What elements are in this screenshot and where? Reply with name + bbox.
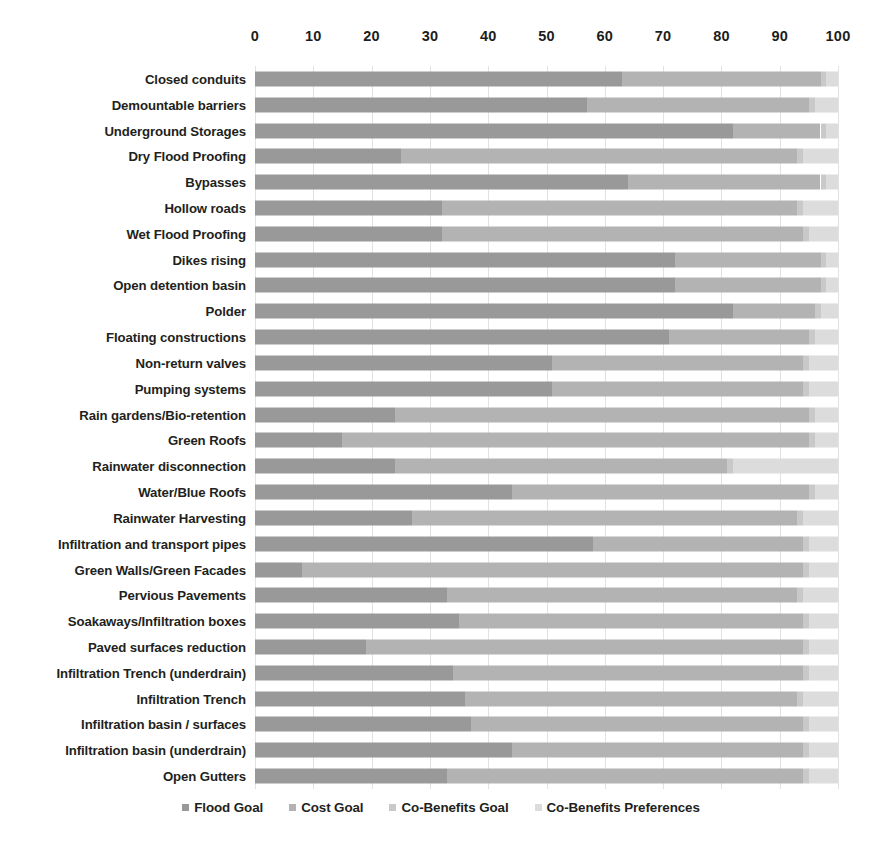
category-label: Underground Storages — [0, 123, 246, 138]
legend-swatch-icon — [389, 804, 396, 811]
category-label: Rainwater disconnection — [0, 459, 246, 474]
chart-row: Polder — [0, 298, 882, 324]
stacked-bar — [255, 769, 838, 784]
stacked-bar-chart: 0102030405060708090100 Closed conduitsDe… — [0, 0, 882, 859]
bar-segment-flood-goal — [255, 485, 512, 500]
bar-segment-co-benefits-preferences — [809, 226, 838, 241]
stacked-bar — [255, 743, 838, 758]
bar-segment-cost-goal — [447, 588, 797, 603]
category-label: Dry Flood Proofing — [0, 149, 246, 164]
bar-segment-flood-goal — [255, 588, 447, 603]
bar-segment-flood-goal — [255, 175, 628, 190]
chart-rows: Closed conduitsDemountable barriersUnder… — [0, 66, 882, 789]
bar-segment-flood-goal — [255, 459, 395, 474]
legend-item-co-benefits-goal[interactable]: Co-Benefits Goal — [389, 800, 508, 815]
bar-segment-co-benefits-preferences — [803, 149, 838, 164]
stacked-bar — [255, 226, 838, 241]
bar-segment-flood-goal — [255, 123, 733, 138]
x-axis-tick-60: 60 — [597, 28, 614, 44]
stacked-bar — [255, 614, 838, 629]
legend-swatch-icon — [182, 804, 189, 811]
chart-legend: Flood GoalCost GoalCo-Benefits GoalCo-Be… — [0, 800, 882, 815]
bar-segment-cost-goal — [401, 149, 797, 164]
chart-row: Soakaways/Infiltration boxes — [0, 608, 882, 634]
x-axis-tick-labels: 0102030405060708090100 — [0, 28, 882, 54]
bar-segment-co-benefits-preferences — [809, 639, 838, 654]
bar-segment-cost-goal — [593, 536, 803, 551]
chart-row: Underground Storages — [0, 118, 882, 144]
x-axis-tick-20: 20 — [363, 28, 380, 44]
x-axis-tick-50: 50 — [538, 28, 555, 44]
chart-row: Green Walls/Green Facades — [0, 557, 882, 583]
bar-segment-co-benefits-preferences — [815, 485, 838, 500]
chart-row: Pervious Pavements — [0, 582, 882, 608]
bar-segment-cost-goal — [342, 433, 808, 448]
x-axis-tick-70: 70 — [655, 28, 672, 44]
chart-row: Rainwater Harvesting — [0, 505, 882, 531]
chart-row: Non-return valves — [0, 350, 882, 376]
bar-segment-flood-goal — [255, 717, 471, 732]
category-label: Pumping systems — [0, 381, 246, 396]
category-label: Infiltration Trench — [0, 691, 246, 706]
legend-item-flood-goal[interactable]: Flood Goal — [182, 800, 263, 815]
bar-segment-cost-goal — [442, 226, 803, 241]
stacked-bar — [255, 639, 838, 654]
bar-segment-co-benefits-preferences — [803, 201, 838, 216]
category-label: Water/Blue Roofs — [0, 485, 246, 500]
stacked-bar — [255, 665, 838, 680]
category-label: Infiltration and transport pipes — [0, 536, 246, 551]
stacked-bar — [255, 252, 838, 267]
chart-row: Rain gardens/Bio-retention — [0, 402, 882, 428]
bar-segment-cost-goal — [552, 381, 803, 396]
bar-segment-flood-goal — [255, 201, 442, 216]
bar-segment-cost-goal — [733, 123, 820, 138]
chart-row: Infiltration basin (underdrain) — [0, 737, 882, 763]
category-label: Bypasses — [0, 175, 246, 190]
bar-segment-co-benefits-preferences — [826, 175, 838, 190]
chart-row: Green Roofs — [0, 428, 882, 454]
category-label: Infiltration Trench (underdrain) — [0, 665, 246, 680]
legend-item-co-benefits-preferences[interactable]: Co-Benefits Preferences — [535, 800, 700, 815]
bar-segment-flood-goal — [255, 149, 401, 164]
bar-segment-co-benefits-preferences — [803, 510, 838, 525]
bar-segment-flood-goal — [255, 97, 587, 112]
legend-item-cost-goal[interactable]: Cost Goal — [289, 800, 363, 815]
bar-segment-co-benefits-preferences — [826, 71, 838, 86]
stacked-bar — [255, 433, 838, 448]
x-axis-tick-30: 30 — [422, 28, 439, 44]
stacked-bar — [255, 278, 838, 293]
chart-row: Open Gutters — [0, 763, 882, 789]
legend-swatch-icon — [535, 804, 542, 811]
category-label: Soakaways/Infiltration boxes — [0, 614, 246, 629]
bar-segment-flood-goal — [255, 691, 465, 706]
category-label: Floating constructions — [0, 330, 246, 345]
chart-row: Infiltration Trench (underdrain) — [0, 660, 882, 686]
bar-segment-flood-goal — [255, 226, 442, 241]
legend-label: Flood Goal — [194, 800, 263, 815]
bar-segment-flood-goal — [255, 407, 395, 422]
bar-segment-flood-goal — [255, 769, 447, 784]
bar-segment-co-benefits-preferences — [826, 123, 838, 138]
x-axis-tick-40: 40 — [480, 28, 497, 44]
bar-segment-cost-goal — [675, 252, 821, 267]
bar-segment-co-benefits-preferences — [815, 433, 838, 448]
x-axis-tick-100: 100 — [826, 28, 851, 44]
stacked-bar — [255, 485, 838, 500]
stacked-bar — [255, 407, 838, 422]
legend-label: Co-Benefits Preferences — [547, 800, 700, 815]
legend-label: Co-Benefits Goal — [401, 800, 508, 815]
bar-segment-co-benefits-preferences — [815, 330, 838, 345]
bar-segment-flood-goal — [255, 381, 552, 396]
bar-segment-flood-goal — [255, 433, 342, 448]
stacked-bar — [255, 459, 838, 474]
stacked-bar — [255, 149, 838, 164]
chart-row: Hollow roads — [0, 195, 882, 221]
bar-segment-flood-goal — [255, 510, 412, 525]
bar-segment-co-benefits-preferences — [809, 381, 838, 396]
bar-segment-cost-goal — [302, 562, 803, 577]
bar-segment-co-benefits-preferences — [821, 304, 838, 319]
x-axis-tick-0: 0 — [251, 28, 259, 44]
bar-segment-flood-goal — [255, 71, 622, 86]
stacked-bar — [255, 381, 838, 396]
bar-segment-flood-goal — [255, 665, 453, 680]
